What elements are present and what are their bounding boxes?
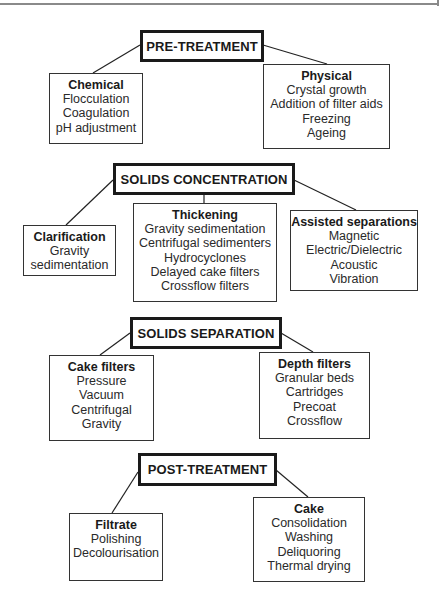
stage-solids-separation: SOLIDS SEPARATION (130, 317, 282, 349)
category-thickening: Thickening Gravity sedimentation Centrif… (133, 203, 277, 302)
category-title: Cake (254, 502, 364, 516)
category-item: Freezing (264, 112, 389, 126)
category-item: Delayed cake filters (134, 265, 276, 279)
category-item: pH adjustment (50, 121, 142, 135)
category-item: Acoustic (291, 258, 417, 272)
category-item: Gravity sedimentation (134, 222, 276, 236)
category-item: Washing (254, 530, 364, 544)
category-item: Electric/Dielectric (291, 243, 417, 257)
category-item: Decolourisation (70, 546, 162, 560)
category-title: Depth filters (260, 357, 369, 371)
category-item: Vibration (291, 272, 417, 286)
category-title: Cake filters (50, 360, 153, 374)
category-title: Physical (264, 69, 389, 83)
category-item: Hydrocyclones (134, 251, 276, 265)
category-chemical: Chemical Flocculation Coagulation pH adj… (49, 73, 143, 144)
category-item: Thermal drying (254, 559, 364, 573)
category-title: Filtrate (70, 518, 162, 532)
category-title: Thickening (134, 208, 276, 222)
category-item: Magnetic (291, 229, 417, 243)
category-physical: Physical Crystal growth Addition of filt… (263, 64, 390, 149)
category-item: Deliquoring (254, 545, 364, 559)
category-item: Gravity (50, 417, 153, 431)
category-item: Crossflow filters (134, 279, 276, 293)
category-item: Granular beds (260, 371, 369, 385)
category-filtrate: Filtrate Polishing Decolourisation (69, 513, 163, 581)
category-clarification: Clarification Gravity sedimentation (23, 225, 116, 276)
stage-pre-treatment: PRE-TREATMENT (140, 30, 264, 62)
category-item: Gravity (24, 244, 115, 258)
category-cake: Cake Consolidation Washing Deliquoring T… (253, 497, 365, 582)
category-item: Polishing (70, 532, 162, 546)
category-title: Clarification (24, 230, 115, 244)
category-depth-filters: Depth filters Granular beds Cartridges P… (259, 352, 370, 439)
category-item: Ageing (264, 126, 389, 140)
category-item: Precoat (260, 400, 369, 414)
category-item: Consolidation (254, 516, 364, 530)
category-item: Addition of filter aids (264, 97, 389, 111)
category-item: Pressure (50, 374, 153, 388)
category-item: Crystal growth (264, 83, 389, 97)
category-item: Cartridges (260, 385, 369, 399)
category-item: Crossflow (260, 414, 369, 428)
category-item: Vacuum (50, 388, 153, 402)
stage-post-treatment: POST-TREATMENT (138, 453, 277, 486)
category-item: Flocculation (50, 92, 142, 106)
category-item: Coagulation (50, 106, 142, 120)
category-item: sedimentation (24, 258, 115, 272)
category-assisted-separations: Assisted separations Magnetic Electric/D… (290, 210, 418, 291)
category-item: Centrifugal (50, 403, 153, 417)
category-title: Assisted separations (291, 215, 417, 229)
category-cake-filters: Cake filters Pressure Vacuum Centrifugal… (49, 355, 154, 441)
stage-solids-concentration: SOLIDS CONCENTRATION (113, 163, 295, 195)
category-item: Centrifugal sedimenters (134, 236, 276, 250)
category-title: Chemical (50, 78, 142, 92)
